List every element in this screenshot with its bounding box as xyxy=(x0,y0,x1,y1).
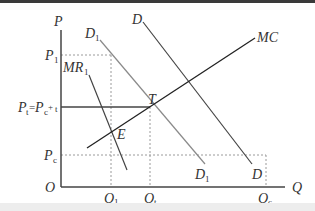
svg-text:P: P xyxy=(34,100,44,115)
x-axis-label: Q xyxy=(292,180,302,195)
origin-label: O xyxy=(45,180,55,195)
svg-text:+: + xyxy=(48,102,53,112)
svg-text:P: P xyxy=(44,48,54,63)
svg-text:MR: MR xyxy=(62,60,84,75)
svg-text:1: 1 xyxy=(54,55,59,65)
d1-curve-bottom-label: D 1 xyxy=(194,167,210,184)
svg-text:t: t xyxy=(55,104,58,114)
bottom-border-band xyxy=(0,203,315,211)
svg-text:1: 1 xyxy=(95,33,100,43)
economics-diagram: P Q O P 1 P t = P c + t P c Q 1 Q t Q c … xyxy=(0,0,315,211)
svg-text:P: P xyxy=(43,148,53,163)
svg-text:D: D xyxy=(84,26,95,41)
svg-text:1: 1 xyxy=(205,174,210,184)
svg-text:1: 1 xyxy=(84,67,89,77)
demand-curve-d xyxy=(143,22,252,164)
mr1-curve-label: MR 1 xyxy=(62,60,89,77)
d1-curve-top-label: D 1 xyxy=(84,26,100,43)
y-axis-label: P xyxy=(53,14,63,29)
p1-label: P 1 xyxy=(44,48,59,65)
mr1-curve xyxy=(89,75,127,170)
svg-text:c: c xyxy=(53,155,57,165)
d-curve-top-label: D xyxy=(131,12,142,27)
point-t-label: T xyxy=(148,92,157,107)
pc-label: P c xyxy=(43,148,57,165)
svg-text:D: D xyxy=(194,167,205,182)
mc-curve-label: MC xyxy=(256,30,279,45)
guide-lines xyxy=(61,55,266,187)
point-e-label: E xyxy=(116,127,126,142)
d-curve-bottom-label: D xyxy=(251,167,262,182)
pt-label: P t = P c + t xyxy=(17,100,58,117)
